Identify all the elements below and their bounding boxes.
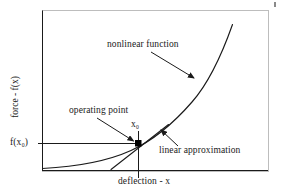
y-axis-label: force - f(x) (10, 52, 24, 142)
y-tick-label-fx0: f(x₀) (10, 138, 28, 148)
operating-point-label: operating point (69, 106, 128, 116)
chart-canvas (0, 0, 282, 195)
figure-container: force - f(x) deflection - x f(x₀) x₀ ope… (0, 0, 282, 195)
x-axis-label: deflection - x (100, 177, 188, 187)
scan-artifact-mark (274, 2, 276, 7)
operating-point-marker (135, 140, 142, 147)
nonlinear-function-label: nonlinear function (107, 40, 179, 50)
x-tick-label-x0: x₀ (131, 120, 139, 130)
linear-approximation-label: linear approximation (159, 146, 240, 156)
